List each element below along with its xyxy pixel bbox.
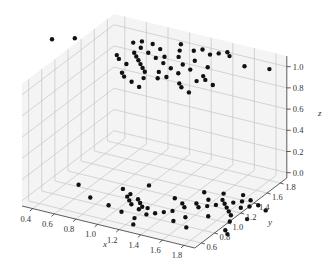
data-point <box>115 53 119 57</box>
data-point <box>153 211 157 215</box>
data-point <box>158 47 162 51</box>
data-point <box>229 213 233 217</box>
data-point <box>122 74 126 78</box>
data-point <box>143 70 147 74</box>
data-point <box>184 225 188 229</box>
y-tick-mark <box>215 233 219 234</box>
data-point <box>214 203 218 207</box>
data-point <box>183 215 187 219</box>
z-tick-label: 0.6 <box>293 104 304 114</box>
data-point <box>203 78 207 82</box>
x-axis-label: x <box>102 239 107 249</box>
data-point <box>201 74 205 78</box>
x-tick-mark <box>181 245 184 248</box>
data-point <box>138 201 142 205</box>
data-point <box>221 191 225 195</box>
data-point <box>169 66 173 70</box>
data-point <box>202 190 206 194</box>
data-point <box>132 216 136 220</box>
y-tick-mark <box>267 193 271 194</box>
data-point <box>180 201 184 205</box>
data-point <box>194 201 198 205</box>
data-point <box>141 76 145 80</box>
data-point <box>161 61 165 65</box>
x-tick-mark <box>159 240 162 243</box>
x-tick-label: 0.8 <box>64 224 75 234</box>
data-point <box>88 195 92 199</box>
data-point <box>137 207 141 211</box>
x-tick-label: 0.4 <box>20 214 31 224</box>
data-point <box>50 37 54 41</box>
data-point <box>164 75 168 79</box>
data-point <box>121 187 125 191</box>
data-point <box>170 209 174 213</box>
z-tick-label: 0.0 <box>293 168 304 178</box>
data-point <box>227 209 231 213</box>
data-point <box>136 197 140 201</box>
data-point <box>136 58 140 62</box>
data-point <box>242 64 246 68</box>
z-axis-ticks: 0.00.20.40.60.81.0 <box>287 62 304 178</box>
data-point <box>227 54 231 58</box>
data-point <box>151 42 155 46</box>
data-point <box>154 56 158 60</box>
data-point <box>206 198 210 202</box>
y-tick-label: 1.6 <box>272 192 283 202</box>
data-point <box>247 204 251 208</box>
data-point <box>125 194 129 198</box>
data-point <box>217 51 221 55</box>
y-tick-label: 1.8 <box>285 182 296 192</box>
z-axis-label: z <box>317 108 322 118</box>
y-tick-label: 1.0 <box>233 222 244 232</box>
data-point <box>211 83 215 87</box>
x-tick-mark <box>51 214 54 217</box>
data-point <box>76 183 80 187</box>
x-tick-mark <box>73 219 76 222</box>
data-point <box>131 222 135 226</box>
z-tick-label: 1.0 <box>293 62 304 72</box>
x-tick-mark <box>116 230 119 233</box>
data-point <box>194 79 198 83</box>
y-tick-mark <box>254 203 258 204</box>
data-point <box>176 71 180 75</box>
data-point <box>129 80 133 84</box>
data-point <box>231 200 235 204</box>
x-tick-mark <box>95 224 98 227</box>
data-point <box>173 196 177 200</box>
data-point <box>134 54 138 58</box>
x-tick-label: 1.8 <box>172 250 183 260</box>
data-point <box>239 206 243 210</box>
z-tick-label: 0.4 <box>293 125 304 135</box>
data-point <box>208 52 212 56</box>
data-point <box>240 199 244 203</box>
y-axis-label: y <box>267 217 272 227</box>
data-point <box>146 51 150 55</box>
data-point <box>157 70 161 74</box>
data-point <box>220 198 224 202</box>
x-tick-label: 1.2 <box>107 235 118 245</box>
data-point <box>119 210 123 214</box>
data-point <box>179 85 183 89</box>
x-tick-label: 1.6 <box>150 245 161 255</box>
data-point <box>131 40 135 44</box>
data-point <box>225 50 229 54</box>
data-point <box>248 198 252 202</box>
data-point <box>127 198 131 202</box>
y-tick-label: 1.4 <box>259 202 270 212</box>
data-point <box>188 67 192 71</box>
data-point <box>196 205 200 209</box>
y-tick-label: 1.2 <box>246 212 257 222</box>
data-point <box>147 183 151 187</box>
data-point <box>206 214 210 218</box>
data-point <box>140 39 144 43</box>
data-point <box>267 67 271 71</box>
data-point <box>200 47 204 51</box>
data-point <box>144 212 148 216</box>
y-tick-label: 0.6 <box>206 242 217 252</box>
y-tick-mark <box>201 243 205 244</box>
data-point <box>178 48 182 52</box>
data-point <box>73 36 77 40</box>
data-point <box>162 210 166 214</box>
data-point <box>187 90 191 94</box>
data-point <box>222 202 226 206</box>
